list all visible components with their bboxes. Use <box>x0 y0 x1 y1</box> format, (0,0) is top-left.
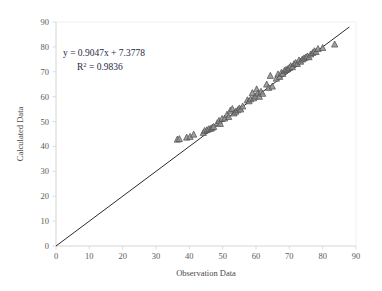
regression-equation-label: y = 0.9047x + 7.3778 <box>63 48 145 58</box>
x-axis-title: Observation Data <box>176 268 236 278</box>
x-tick-label: 80 <box>318 251 327 261</box>
y-tick-label: 70 <box>41 67 50 77</box>
y-tick-label: 40 <box>41 141 50 151</box>
x-tick-label: 40 <box>185 251 194 261</box>
x-tick-label: 60 <box>252 251 261 261</box>
y-tick-label: 50 <box>41 117 50 127</box>
x-tick-label: 90 <box>352 251 361 261</box>
x-tick-label: 50 <box>218 251 227 261</box>
y-tick-label: 80 <box>41 42 50 52</box>
x-tick-label: 10 <box>85 251 94 261</box>
y-tick-label: 10 <box>41 216 50 226</box>
y-tick-label: 60 <box>41 92 50 102</box>
y-tick-label: 30 <box>41 166 50 176</box>
chart-svg: 0102030405060708090 0102030405060708090 … <box>0 0 382 291</box>
y-tick-label: 90 <box>41 17 50 27</box>
scatter-chart: 0102030405060708090 0102030405060708090 … <box>0 0 382 291</box>
y-tick-label: 0 <box>45 241 49 251</box>
r-squared-value: = 0.9836 <box>87 62 123 72</box>
y-axis-title: Calculated Data <box>15 107 25 162</box>
x-tick-label: 70 <box>285 251 294 261</box>
x-tick-label: 20 <box>118 251 127 261</box>
x-tick-label: 0 <box>54 251 58 261</box>
x-tick-label: 30 <box>152 251 161 261</box>
y-tick-label: 20 <box>41 191 50 201</box>
